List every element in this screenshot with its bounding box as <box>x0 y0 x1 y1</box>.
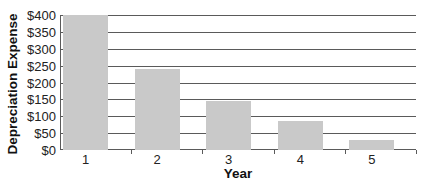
gridline <box>60 49 416 50</box>
x-tick-mark <box>416 150 417 154</box>
gridline <box>60 83 416 84</box>
x-axis-label: Year <box>224 166 253 181</box>
x-tick-label: 1 <box>82 152 89 167</box>
bar-year-4 <box>278 121 323 150</box>
bar-year-3 <box>206 101 251 150</box>
plot-area <box>60 15 416 150</box>
y-tick-label: $0 <box>16 143 56 158</box>
x-tick-label: 2 <box>153 152 160 167</box>
y-tick-label: $150 <box>16 92 56 107</box>
bar-year-1 <box>63 15 108 150</box>
gridline <box>60 15 416 16</box>
x-tick-mark <box>274 150 275 154</box>
x-tick-label: 5 <box>368 152 375 167</box>
gridline <box>60 66 416 67</box>
x-tick-label: 3 <box>225 152 232 167</box>
bar-year-5 <box>349 140 394 150</box>
y-tick-label: $350 <box>16 24 56 39</box>
x-tick-label: 4 <box>297 152 304 167</box>
y-tick-label: $250 <box>16 58 56 73</box>
x-tick-mark <box>131 150 132 154</box>
gridline <box>60 99 416 100</box>
y-tick-label: $50 <box>16 126 56 141</box>
y-tick-label: $200 <box>16 75 56 90</box>
bar-year-2 <box>135 69 180 150</box>
y-tick-label: $400 <box>16 8 56 23</box>
x-tick-mark <box>202 150 203 154</box>
y-tick-label: $300 <box>16 41 56 56</box>
y-tick-label: $100 <box>16 109 56 124</box>
x-tick-mark <box>345 150 346 154</box>
gridline <box>60 32 416 33</box>
